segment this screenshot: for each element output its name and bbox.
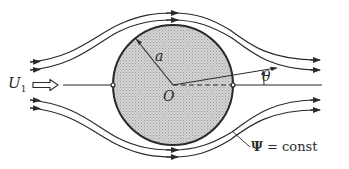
- psi-leader-line: [232, 131, 250, 147]
- streamfunction-label: Ψ = const: [251, 140, 317, 153]
- cylinder-flow-diagram: U1 a O θ Ψ = const: [0, 0, 349, 169]
- radius-label: a: [155, 49, 163, 63]
- freestream-arrow-icon: [33, 80, 58, 91]
- angle-label: θ: [262, 69, 270, 83]
- freestream-velocity-label: U1: [8, 76, 26, 94]
- angle-ray-arrowhead-icon: [270, 67, 278, 71]
- origin-label: O: [163, 89, 174, 103]
